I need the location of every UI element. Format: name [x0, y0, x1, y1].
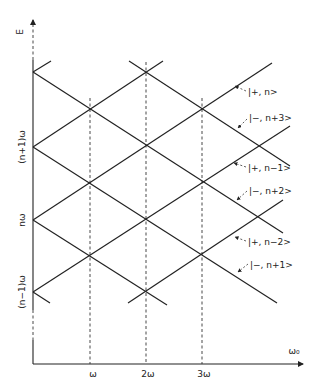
pointer-arrow-icon	[234, 163, 246, 167]
x-tick-label-omega: ω	[89, 369, 97, 379]
y-axis-label: E	[15, 29, 25, 35]
level-line	[33, 220, 167, 305]
x-tick-label-2omega: 2ω	[141, 369, 154, 379]
y-tick-label-n: nω	[17, 213, 27, 226]
state-label-plus-n-minus-2: |+, n−2>	[248, 237, 291, 247]
pointer-arrow-icon	[238, 119, 247, 128]
pointer-arrow-icon	[238, 264, 248, 272]
y-tick-label-n-minus-1: (n−1)ω	[17, 275, 27, 309]
x-axis-label: ω₀	[288, 346, 300, 356]
state-label-minus-n-plus-3: |−, n+3>	[249, 113, 292, 123]
pointer-arrow-icon	[235, 237, 246, 241]
x-tick-label-3omega: 3ω	[197, 369, 210, 379]
state-label-minus-n-plus-2: |−, n+2>	[249, 186, 292, 196]
state-label-plus-n-minus-1: |+, n−1>	[248, 163, 291, 173]
y-tick-label-n-plus-1: (n+1)ω	[17, 130, 27, 164]
pointer-arrow-icon	[237, 191, 247, 200]
level-line	[33, 292, 50, 303]
resonance-lines	[90, 62, 202, 364]
level-line	[33, 61, 51, 72]
level-line	[33, 63, 272, 220]
energy-level-diagram: E ω₀ (n+1)ω nω (n−1)ω ω 2ω 3ω |+, n> |−,…	[0, 0, 320, 391]
state-label-plus-n: |+, n>	[248, 87, 278, 97]
level-line	[33, 61, 163, 147]
level-line	[33, 72, 283, 233]
state-label-minus-n-plus-1: |−, n+1>	[250, 260, 293, 270]
state-pointers	[234, 86, 248, 272]
level-line	[33, 147, 277, 303]
